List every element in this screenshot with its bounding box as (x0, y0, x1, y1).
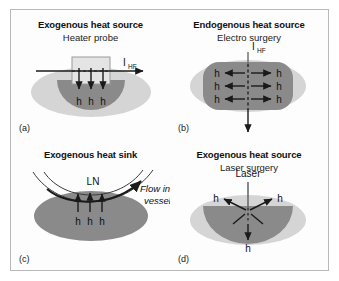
current-label-a: I (123, 57, 126, 68)
current-subscript-a: HF (128, 63, 137, 70)
heat-label-b-right-1: h (276, 68, 282, 79)
heat-label-b-right-2: h (276, 81, 282, 92)
panel-b: Endogenous heat source Electro surgery (… (170, 10, 328, 140)
panel-c-graphic: LN h h h Flow in vessel (11, 140, 170, 271)
laser-source-label: Laser (235, 168, 261, 179)
heat-label-d-2: h (277, 193, 283, 204)
heat-label-d-1: h (213, 193, 219, 204)
heat-label-b-left-2: h (214, 81, 220, 92)
heat-label-c-3: h (99, 216, 105, 227)
heat-label-b-left-1: h (214, 68, 220, 79)
heat-label-a-2: h (88, 96, 94, 107)
panel-a-graphic: h h h I HF (11, 10, 170, 140)
panel-c: Exogenous heat sink (c) LN h h (11, 140, 170, 271)
heat-label-d-3: h (245, 243, 251, 254)
heat-label-c-2: h (87, 216, 93, 227)
heat-label-b-right-3: h (276, 94, 282, 105)
heat-label-a-3: h (100, 96, 106, 107)
panel-d: Exogenous heat source Laser surgery (d) … (170, 140, 328, 271)
heat-label-c-1: h (75, 216, 81, 227)
current-label-b: I (252, 41, 255, 52)
vessel-label: LN (87, 176, 100, 187)
heat-label-b-left-3: h (214, 94, 220, 105)
panel-d-graphic: Laser h h h (170, 140, 328, 271)
figure-root: Exogenous heat source Heater probe (a) (0, 0, 339, 281)
heat-label-a-1: h (76, 96, 82, 107)
current-subscript-b: HF (257, 47, 266, 54)
flow-label-line2: vessel (144, 195, 170, 206)
panel-b-graphic: h h h h h h I HF (170, 10, 328, 140)
flow-label-line1: Flow in (140, 183, 170, 194)
panel-a: Exogenous heat source Heater probe (a) (11, 10, 170, 140)
